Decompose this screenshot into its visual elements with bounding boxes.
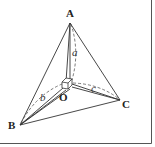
- label-point-a: A: [66, 7, 74, 19]
- edge-oa: [66, 23, 70, 82]
- label-point-b: B: [8, 119, 16, 131]
- edge-c-o2: [72, 84, 120, 100]
- arc-b: [21, 84, 62, 123]
- arc-c: [73, 83, 119, 99]
- inner-edges: [20, 23, 120, 125]
- diagram-canvas: A B C O a b c: [0, 0, 155, 147]
- label-point-o: O: [59, 91, 68, 103]
- right-angle-cube-icon: [62, 78, 72, 89]
- edge-ab: [20, 23, 70, 125]
- label-length-b: b: [40, 91, 46, 103]
- label-length-a: a: [72, 46, 78, 58]
- label-length-c: c: [91, 82, 96, 94]
- label-point-c: C: [122, 98, 130, 110]
